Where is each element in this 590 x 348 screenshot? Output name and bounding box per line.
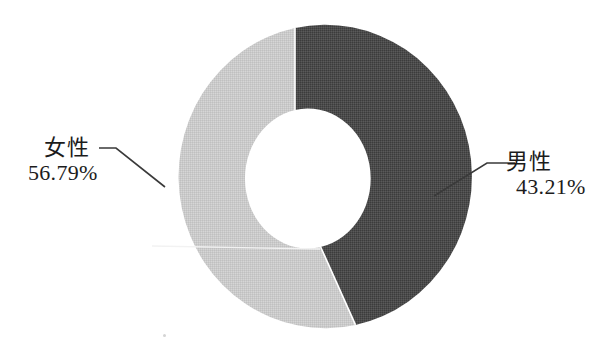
slice-label-male-value: 43.21% — [506, 175, 586, 200]
slice-label-female-value: 56.79% — [28, 161, 98, 186]
slice-label-female-name: 女性 — [28, 136, 98, 161]
donut-chart-figure: 女性 56.79% 男性 43.21% — [0, 0, 590, 348]
scan-artifact-speck — [163, 334, 166, 337]
slice-label-female: 女性 56.79% — [28, 136, 98, 185]
slice-label-male: 男性 43.21% — [506, 150, 586, 199]
slice-label-male-name: 男性 — [506, 150, 586, 175]
leader-line-female — [99, 148, 165, 187]
